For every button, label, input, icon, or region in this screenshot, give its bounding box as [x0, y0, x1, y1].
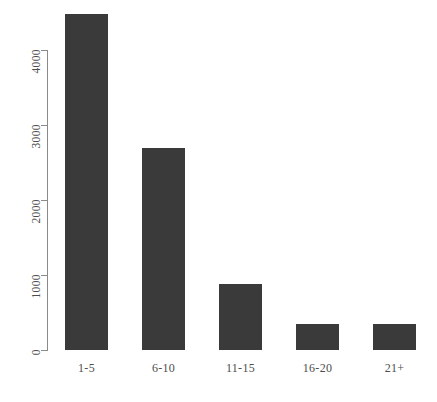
plot-area: 0 1000 2000 3000 4000 [0, 0, 437, 402]
x-axis-baseline [41, 350, 48, 351]
y-tick-3000 [41, 125, 47, 126]
x-tick-label-11-15: 11-15 [219, 361, 262, 376]
bar-16-20 [296, 324, 339, 350]
y-tick-label-2000: 2000 [30, 199, 42, 224]
bar-1-5 [65, 14, 108, 350]
y-tick-2000 [41, 200, 47, 201]
y-tick-label-1000: 1000 [30, 274, 42, 299]
x-tick-label-16-20: 16-20 [296, 361, 339, 376]
bar-6-10 [142, 148, 185, 351]
bar-chart: 0 1000 2000 3000 4000 [0, 0, 437, 85]
x-tick-label-1-5: 1-5 [65, 361, 108, 376]
y-tick-1000 [41, 275, 47, 276]
bar-11-15 [219, 284, 262, 350]
x-tick-label-21-plus: 21+ [373, 361, 416, 376]
bar-21-plus [373, 324, 416, 350]
y-tick-label-3000: 3000 [30, 124, 42, 149]
x-tick-label-6-10: 6-10 [142, 361, 185, 376]
y-tick-4000 [41, 50, 47, 51]
y-tick-label-4000: 4000 [30, 49, 42, 74]
y-axis-line [47, 50, 48, 350]
